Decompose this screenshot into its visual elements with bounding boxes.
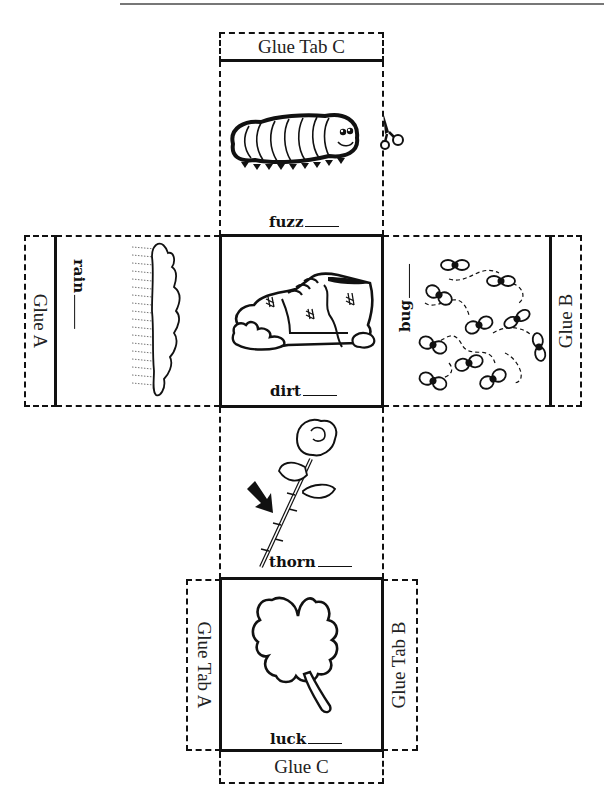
glue-tab-a-label: Glue Tab A	[194, 622, 216, 709]
glue-a: Glue A	[24, 235, 57, 407]
flying-bugs-icon	[409, 243, 549, 403]
glue-tab-c-label: Glue Tab C	[258, 36, 345, 58]
caterpillar-icon	[225, 106, 365, 176]
glue-tab-b: Glue Tab B	[382, 579, 418, 751]
face-luck: luck	[219, 577, 384, 752]
glue-a-label: Glue A	[29, 294, 51, 348]
glue-b-label: Glue B	[555, 294, 577, 348]
word-label-fuzz: fuzz	[269, 213, 339, 231]
rose-with-arrow-icon	[241, 409, 381, 569]
rain-cloud-icon	[126, 241, 196, 401]
scissors-icon	[377, 110, 405, 150]
bug-swarm	[418, 260, 547, 391]
face-bug: bug	[383, 235, 551, 407]
glue-b: Glue B	[549, 235, 582, 407]
header-rule	[120, 3, 604, 5]
glue-tab-c: Glue Tab C	[219, 32, 384, 62]
word-label-rain: rain	[70, 259, 88, 329]
glue-c-label: Glue C	[274, 756, 328, 778]
word-label-dirt: dirt	[270, 382, 337, 400]
glue-tab-a: Glue Tab A	[186, 579, 221, 751]
face-fuzz: fuzz	[219, 61, 384, 236]
face-thorn: thorn	[219, 407, 384, 579]
dirty-shoe-icon	[228, 263, 378, 363]
word-label-thorn: thorn	[269, 553, 352, 571]
word-label-luck: luck	[270, 730, 342, 748]
shamrock-icon	[246, 588, 356, 718]
glue-tab-b-label: Glue Tab B	[388, 622, 410, 709]
face-dirt: dirt	[219, 234, 384, 408]
face-rain: rain	[56, 235, 220, 407]
glue-c: Glue C	[219, 752, 384, 784]
